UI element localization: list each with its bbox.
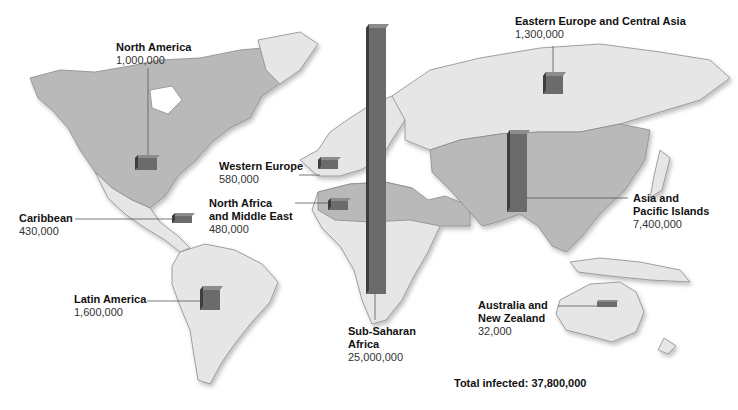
label-name: Asia and xyxy=(633,192,709,205)
label-value: 480,000 xyxy=(209,223,293,236)
bar-north-africa xyxy=(328,198,351,210)
label-north-america: North America 1,000,000 xyxy=(116,41,191,67)
bar-caribbean xyxy=(172,213,195,223)
bar-asia-pacific xyxy=(507,130,530,212)
region-latin-america xyxy=(172,244,278,384)
region-australia xyxy=(556,282,644,342)
label-latin-america: Latin America 1,600,000 xyxy=(74,293,146,319)
label-name-2: Pacific Islands xyxy=(633,205,709,218)
label-asia-pacific: Asia and Pacific Islands 7,400,000 xyxy=(633,192,709,231)
label-name: North Africa xyxy=(209,197,293,210)
label-western-europe: Western Europe 580,000 xyxy=(219,160,303,186)
label-sub-saharan-africa: Sub-Saharan Africa 25,000,000 xyxy=(348,325,416,364)
label-value: 7,400,000 xyxy=(633,218,709,231)
region-europe xyxy=(300,96,410,176)
label-name-2: and Middle East xyxy=(209,210,293,223)
label-name: North America xyxy=(116,41,191,54)
label-name: Caribbean xyxy=(19,212,73,225)
label-value: 580,000 xyxy=(219,173,303,186)
label-name: Sub-Saharan xyxy=(348,325,416,338)
bar-sub-saharan-africa xyxy=(366,24,389,294)
label-value: 25,000,000 xyxy=(348,351,416,364)
total-infected-label: Total infected: 37,800,000 xyxy=(454,377,586,389)
label-name: Eastern Europe and Central Asia xyxy=(515,15,686,28)
label-value: 1,600,000 xyxy=(74,306,146,319)
label-name: Latin America xyxy=(74,293,146,306)
bar-latin-america xyxy=(200,286,223,310)
bar-western-europe xyxy=(318,157,341,169)
label-value: 1,000,000 xyxy=(116,54,191,67)
label-name-2: New Zealand xyxy=(478,312,548,325)
label-name-2: Africa xyxy=(348,338,416,351)
label-value: 430,000 xyxy=(19,225,73,238)
label-caribbean: Caribbean 430,000 xyxy=(19,212,73,238)
label-australia: Australia and New Zealand 32,000 xyxy=(478,299,548,338)
label-value: 32,000 xyxy=(478,325,548,338)
bar-australia xyxy=(597,300,618,307)
label-name: Western Europe xyxy=(219,160,303,173)
bar-north-america xyxy=(135,155,160,170)
label-eastern-europe: Eastern Europe and Central Asia 1,300,00… xyxy=(515,15,686,41)
label-north-africa: North Africa and Middle East 480,000 xyxy=(209,197,293,236)
label-name: Australia and xyxy=(478,299,548,312)
bar-eastern-europe xyxy=(543,72,566,94)
region-asia xyxy=(430,124,650,252)
label-value: 1,300,000 xyxy=(515,28,686,41)
